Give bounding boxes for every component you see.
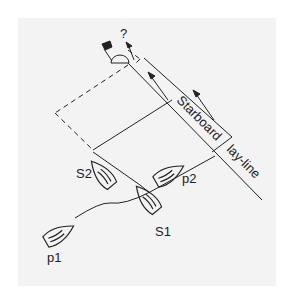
p1-label: p1 [47,250,61,265]
s2-track [93,152,150,193]
p2-label: p2 [182,171,196,186]
layline-label: lay-line [224,142,264,182]
mark-icon [111,55,129,63]
dashed-box [55,50,140,150]
s2-label: S2 [76,166,92,181]
question-label: ? [120,26,127,41]
box-line [93,100,172,150]
boat-p1 [42,219,77,248]
flag-icon [102,41,112,50]
sailing-diagram: ? Starboard lay-line S2 S1 p2 p1 [0,0,287,300]
s1-label: S1 [155,224,171,239]
